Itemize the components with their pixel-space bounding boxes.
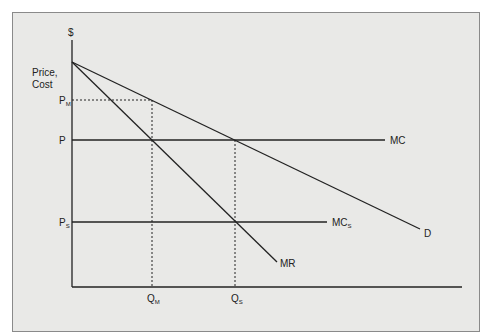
marginal-revenue-curve: [72, 62, 277, 262]
ps-label: PS: [59, 217, 70, 229]
qm-label: QM: [147, 293, 160, 305]
mcs-label: MCS: [332, 217, 352, 229]
mr-label: MR: [280, 258, 296, 269]
p-label: P: [59, 135, 66, 146]
demand-curve: [72, 62, 420, 229]
qs-label: QS: [231, 293, 243, 305]
mc-label: MC: [390, 135, 406, 146]
demand-label: D: [424, 228, 431, 239]
axis-dollar-label: $: [68, 27, 74, 38]
pm-label: PM: [59, 95, 71, 107]
axis-title-cost: Cost: [32, 79, 53, 90]
axis-title-price: Price,: [32, 67, 58, 78]
